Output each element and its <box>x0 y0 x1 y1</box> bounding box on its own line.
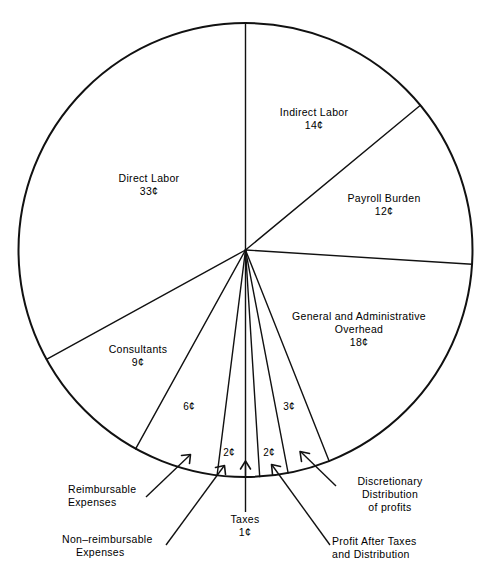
callout-label-profit-after-line1: Profit After Taxes <box>332 535 417 547</box>
callout-label-discretionary-line2: Distribution <box>357 488 422 501</box>
callout-label-discretionary: Discretionary Distribution of profits <box>357 475 422 514</box>
callout-label-reimbursable: Reimbursable Expenses <box>68 483 136 509</box>
slice-label-indirect-labor-name: Indirect Labor <box>280 106 348 118</box>
slice-value-ga-overhead: 18¢ <box>292 336 426 349</box>
slice-label-consultants-name: Consultants <box>109 343 168 355</box>
callout-label-taxes-line1: Taxes <box>231 513 260 525</box>
slice-value-indirect-labor: 14¢ <box>280 119 348 132</box>
callout-non-reimbursable-leader <box>166 466 226 546</box>
slice-label-ga-overhead-line2: Overhead <box>292 323 426 336</box>
callout-label-reimbursable-line2: Expenses <box>68 496 136 509</box>
slice-label-direct-labor: Direct Labor 33¢ <box>119 172 180 198</box>
slice-value-direct-labor: 33¢ <box>119 185 180 198</box>
callout-label-reimbursable-line1: Reimbursable <box>68 483 136 495</box>
slice-label-payroll-burden-name: Payroll Burden <box>347 192 420 204</box>
callout-label-non-reimbursable: Non–reimbursable Expenses <box>62 533 153 559</box>
pie-chart-figure: Indirect Labor 14¢ Payroll Burden 12¢ Ge… <box>0 0 479 580</box>
slice-value-consultants: 9¢ <box>109 356 168 369</box>
slice-value-reimbursable: 6¢ <box>183 400 195 413</box>
callout-label-non-reimbursable-line2: Expenses <box>76 546 153 559</box>
callout-label-discretionary-line1: Discretionary <box>357 475 422 487</box>
slice-label-ga-overhead: General and Administrative Overhead 18¢ <box>292 310 426 349</box>
slice-value-non-reimbursable: 2¢ <box>223 446 235 459</box>
slice-label-consultants: Consultants 9¢ <box>109 343 168 369</box>
slice-label-ga-overhead-line1: General and Administrative <box>292 310 426 322</box>
callout-label-taxes: Taxes 1¢ <box>231 513 260 539</box>
callout-label-profit-after-line2: and Distribution <box>332 548 417 561</box>
slice-label-direct-labor-name: Direct Labor <box>119 172 180 184</box>
callout-label-profit-after: Profit After Taxes and Distribution <box>332 535 417 561</box>
callout-label-taxes-line2: 1¢ <box>231 526 260 539</box>
callout-profit-after-leader <box>272 465 331 546</box>
callout-label-non-reimbursable-line1: Non–reimbursable <box>62 533 153 545</box>
slice-value-payroll-burden: 12¢ <box>347 205 420 218</box>
slice-value-discretionary: 3¢ <box>283 400 295 413</box>
slice-label-indirect-labor: Indirect Labor 14¢ <box>280 106 348 132</box>
slice-label-payroll-burden: Payroll Burden 12¢ <box>347 192 420 218</box>
slice-value-profit-after: 2¢ <box>263 446 275 459</box>
callout-label-discretionary-line3: of profits <box>357 501 422 514</box>
